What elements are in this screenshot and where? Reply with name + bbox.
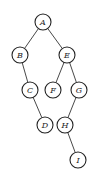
tree-node-D: D (37, 117, 53, 133)
node-label: H (61, 121, 70, 130)
tree-node-I: I (70, 152, 86, 168)
edge-A-E (48, 28, 63, 48)
node-label: F (49, 86, 56, 95)
edge-E-G (70, 63, 77, 83)
node-label: G (76, 86, 83, 95)
edge-E-F (56, 62, 64, 82)
tree-node-G: G (71, 82, 87, 98)
binary-tree-diagram: ABECFGDHI (0, 0, 95, 184)
node-label: A (39, 18, 46, 27)
tree-node-F: F (45, 82, 61, 98)
node-label: B (16, 51, 23, 60)
tree-node-C: C (22, 82, 38, 98)
node-label: D (41, 121, 49, 130)
node-label: C (27, 86, 33, 95)
edge-G-H (68, 97, 76, 117)
edge-B-C (22, 63, 28, 83)
tree-node-E: E (59, 47, 75, 63)
edge-C-D (33, 97, 42, 117)
node-label: E (63, 51, 70, 60)
tree-node-A: A (35, 14, 51, 30)
tree-node-H: H (57, 117, 73, 133)
edge-H-I (68, 132, 75, 152)
tree-nodes: ABECFGDHI (12, 14, 87, 168)
tree-node-B: B (12, 47, 28, 63)
edge-A-B (25, 29, 39, 49)
